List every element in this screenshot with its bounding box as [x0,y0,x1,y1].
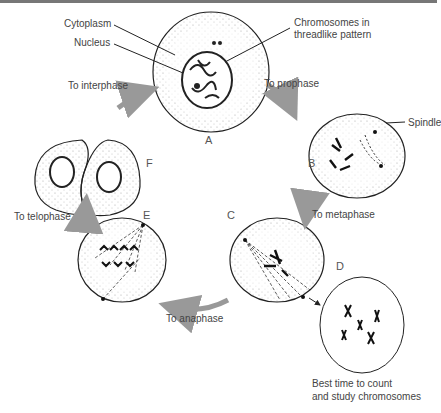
stage-letter-f: F [146,157,153,169]
label-chromosomes-line1: Chromosomes in [294,17,370,29]
stage-letter-d: D [336,260,344,272]
cell-e-anaphase [78,218,166,302]
label-to-prophase: To prophase [264,78,319,90]
stage-letter-c: C [227,209,235,221]
stage-letter-b: B [308,157,315,169]
label-nucleus: Nucleus [74,37,110,49]
stage-letter-a: A [205,134,212,146]
label-to-metaphase: To metaphase [312,209,375,221]
label-to-telophase: To telophase [14,211,71,223]
label-chromosomes-line2: threadlike pattern [294,29,371,41]
label-to-anaphase: To anaphase [166,313,223,325]
label-best-time-line1: Best time to count [312,378,392,390]
cell-a-interphase [153,12,269,132]
label-to-interphase: To interphase [68,80,128,92]
label-spindle: Spindle [408,117,441,129]
stage-letter-e: E [143,209,150,221]
label-cytoplasm: Cytoplasm [64,18,111,30]
cell-d-chromosomes [320,277,404,373]
label-best-time-line2: and study chromosomes [312,391,421,403]
cell-c-metaphase [230,218,324,302]
